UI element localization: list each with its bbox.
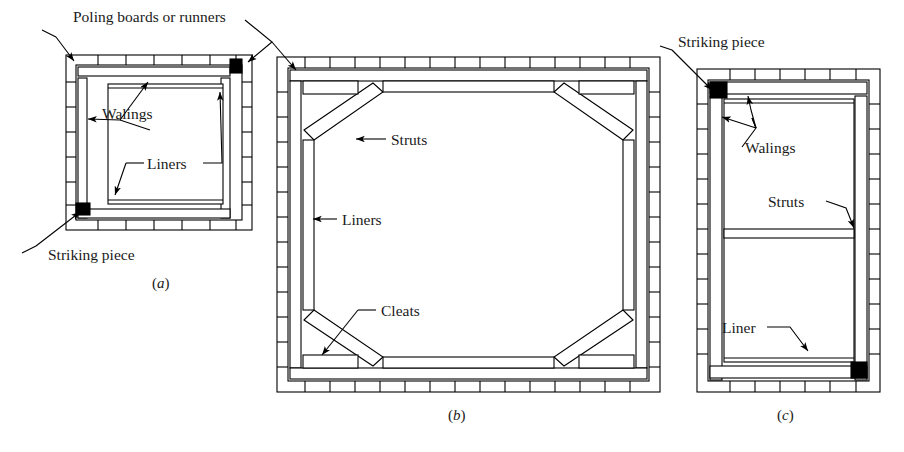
panel-b	[272, 42, 660, 392]
caption-a: (a)	[152, 275, 170, 292]
caption-b: (b)	[448, 407, 466, 424]
caption-a-letter: a	[157, 275, 165, 291]
panel-a-liners	[108, 84, 223, 204]
label-walings-c: Walings	[745, 139, 795, 156]
label-poling-boards-or-runners: Poling boards or runners	[73, 8, 226, 25]
leader-strike-a-hook	[22, 246, 36, 253]
label-liners-a: Liners	[147, 155, 187, 172]
label-striking-piece-c: Striking piece	[678, 33, 765, 50]
label-walings-a: Walings	[102, 105, 152, 122]
label-struts-c: Struts	[768, 193, 804, 210]
leader-poling-hook	[42, 30, 56, 37]
panel-b-poling-boards	[277, 57, 660, 392]
label-striking-piece-a: Striking piece	[48, 246, 135, 263]
figure-canvas: Poling boards or runners Walings Liners …	[0, 0, 904, 452]
panel-a-striking-piece-top	[230, 59, 242, 73]
panel-c-striking-piece-top	[710, 82, 727, 98]
panel-c-struts	[724, 229, 854, 238]
caption-c: (c)	[777, 407, 794, 424]
caption-a-close: )	[165, 275, 170, 292]
leader-poling-to-a	[56, 37, 74, 61]
panel-c	[660, 46, 880, 392]
panel-c-striking-piece-bottom	[851, 362, 867, 378]
panel-a	[22, 20, 272, 253]
label-liner-c: Liner	[722, 319, 756, 336]
caption-c-close: )	[789, 407, 794, 424]
label-cleats-b: Cleats	[381, 302, 420, 319]
timbering-figure: Poling boards or runners Walings Liners …	[0, 0, 904, 452]
leader-strike-c-hook	[660, 46, 672, 50]
label-liners-b: Liners	[342, 211, 382, 228]
label-struts-b: Struts	[391, 131, 427, 148]
caption-b-close: )	[461, 407, 466, 424]
